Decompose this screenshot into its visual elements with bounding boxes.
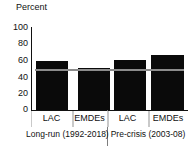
y-tick-0: 0	[23, 105, 28, 114]
category-label-precrisis-emdes: EMDEs	[148, 113, 188, 123]
reference-line	[35, 69, 184, 71]
y-tick-80: 80	[18, 39, 28, 48]
group-label-pre-crisis: Pre-crisis (2003-08)	[108, 129, 188, 140]
category-label-longrun-emdes: EMDEs	[72, 113, 107, 123]
group-label-row: Long-run (1992-2018) Pre-crisis (2003-08…	[0, 129, 189, 145]
bar-longrun-emdes	[78, 68, 110, 110]
category-label-longrun-lac: LAC	[31, 113, 72, 123]
y-tick-100: 100	[13, 23, 28, 32]
y-tick-20: 20	[18, 89, 28, 98]
y-tick-60: 60	[18, 56, 28, 65]
category-label-row: LAC EMDEs LAC EMDEs	[31, 111, 188, 127]
y-axis-tick-labels: 100 80 60 40 20 0	[0, 0, 31, 148]
plot-area	[31, 27, 188, 110]
category-label-precrisis-lac: LAC	[107, 113, 148, 123]
y-tick-40: 40	[18, 73, 28, 82]
group-label-long-run: Long-run (1992-2018)	[26, 129, 108, 140]
bar-precrisis-emdes	[151, 55, 184, 110]
y-axis-line	[31, 27, 32, 110]
percent-bar-chart: Percent 100 80 60 40 20 0 LAC EMDEs LAC …	[0, 0, 189, 148]
